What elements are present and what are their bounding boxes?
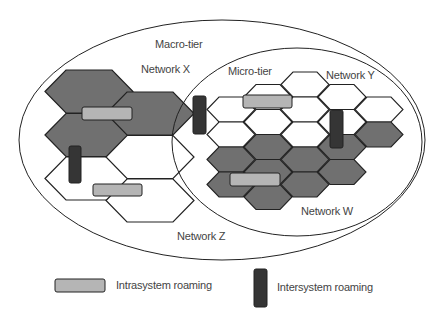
network-y-label: Network Y xyxy=(326,69,375,81)
legend-intrasystem-swatch xyxy=(55,279,105,292)
roaming-diagram xyxy=(0,0,440,323)
legend-intrasystem-label: Intrasystem roaming xyxy=(116,279,212,291)
intrasystem-marker-w xyxy=(230,173,280,186)
intersystem-marker-xy xyxy=(193,96,206,134)
intersystem-marker-xz xyxy=(69,146,81,183)
intrasystem-marker-z xyxy=(93,184,142,196)
network-z-label: Network Z xyxy=(177,230,225,242)
legend-intersystem-swatch xyxy=(254,269,267,307)
network-x-label: Network X xyxy=(141,63,190,75)
legend-intersystem-label: Intersystem roaming xyxy=(277,281,373,293)
intrasystem-marker-y xyxy=(243,95,292,108)
macro-tier-label: Macro-tier xyxy=(155,38,203,50)
intrasystem-marker-x xyxy=(82,107,132,120)
intersystem-marker-yw xyxy=(330,110,343,148)
micro-cells xyxy=(207,72,403,210)
network-w-label: Network W xyxy=(301,205,353,217)
micro-tier-label: Micro-tier xyxy=(228,65,272,77)
